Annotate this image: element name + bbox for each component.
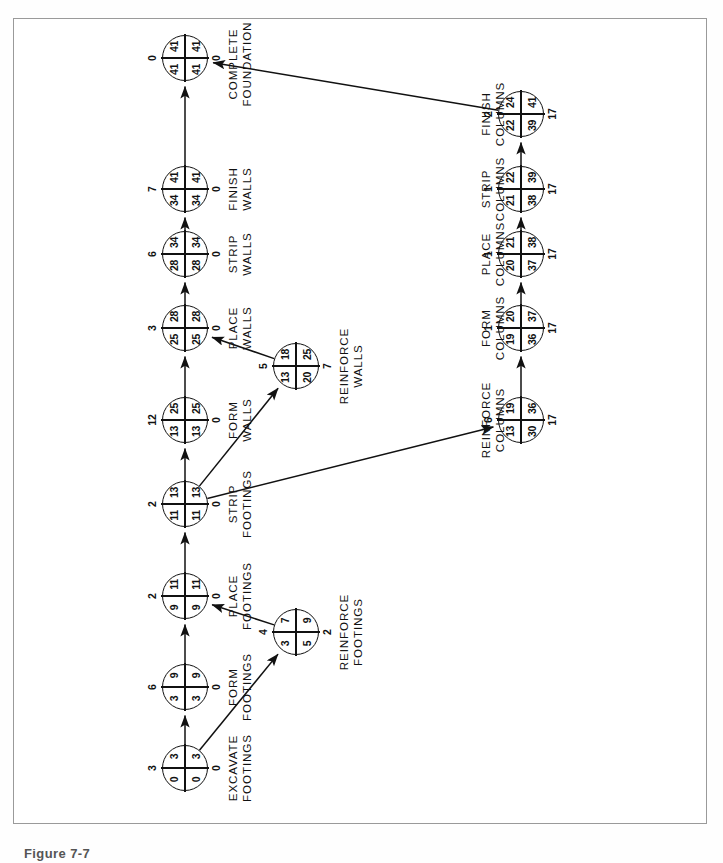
node-finish-walls[interactable]: 3441344170 bbox=[162, 166, 208, 212]
early-finish-value: 41 bbox=[164, 36, 184, 57]
float-value: 0 bbox=[210, 231, 222, 277]
node-reinforce-footings[interactable]: 375942 bbox=[273, 609, 319, 655]
duration-value: 12 bbox=[146, 397, 158, 443]
duration-value: 3 bbox=[146, 745, 158, 791]
float-value: 0 bbox=[210, 664, 222, 710]
duration-value: 3 bbox=[146, 305, 158, 351]
late-start-value: 37 bbox=[522, 255, 542, 276]
early-start-value: 28 bbox=[164, 255, 184, 276]
network-diagram: 0303303939603759429119112011131113201325… bbox=[13, 18, 707, 824]
float-value: 0 bbox=[210, 481, 222, 527]
float-value: 17 bbox=[546, 166, 558, 212]
diagram-rotation-wrapper: 0303303939603759429119112011131113201325… bbox=[13, 18, 707, 824]
late-finish-value: 3 bbox=[186, 746, 206, 767]
node-excavate-footings[interactable]: 030330 bbox=[162, 745, 208, 791]
early-start-value: 3 bbox=[275, 633, 295, 654]
early-start-value: 13 bbox=[275, 367, 295, 388]
early-finish-value: 34 bbox=[164, 232, 184, 253]
duration-value: 0 bbox=[146, 35, 158, 81]
float-value: 0 bbox=[210, 745, 222, 791]
float-value: 17 bbox=[546, 231, 558, 277]
late-finish-value: 25 bbox=[186, 398, 206, 419]
early-start-value: 13 bbox=[164, 421, 184, 442]
duration-value: 4 bbox=[257, 609, 269, 655]
late-finish-value: 36 bbox=[522, 398, 542, 419]
early-start-value: 25 bbox=[164, 329, 184, 350]
late-start-value: 25 bbox=[186, 329, 206, 350]
early-start-value: 41 bbox=[164, 59, 184, 80]
duration-value: 2 bbox=[146, 481, 158, 527]
duration-value: 7 bbox=[146, 166, 158, 212]
late-finish-value: 37 bbox=[522, 306, 542, 327]
float-value: 2 bbox=[321, 609, 333, 655]
node-place-footings[interactable]: 91191120 bbox=[162, 573, 208, 619]
label-reinforce-walls: REINFORCE WALLS bbox=[337, 286, 364, 446]
float-value: 0 bbox=[210, 166, 222, 212]
duration-value: 6 bbox=[146, 664, 158, 710]
late-finish-value: 39 bbox=[522, 167, 542, 188]
late-finish-value: 13 bbox=[186, 482, 206, 503]
early-start-value: 3 bbox=[164, 688, 184, 709]
late-start-value: 0 bbox=[186, 769, 206, 790]
late-start-value: 41 bbox=[186, 59, 206, 80]
late-finish-value: 11 bbox=[186, 574, 206, 595]
node-form-walls[interactable]: 13251325120 bbox=[162, 397, 208, 443]
late-start-value: 11 bbox=[186, 505, 206, 526]
late-start-value: 3 bbox=[186, 688, 206, 709]
float-value: 0 bbox=[210, 397, 222, 443]
late-finish-value: 41 bbox=[522, 92, 542, 113]
late-finish-value: 28 bbox=[186, 306, 206, 327]
early-finish-value: 9 bbox=[164, 665, 184, 686]
late-start-value: 39 bbox=[522, 115, 542, 136]
early-start-value: 0 bbox=[164, 769, 184, 790]
late-start-value: 36 bbox=[522, 329, 542, 350]
node-strip-footings[interactable]: 1113111320 bbox=[162, 481, 208, 527]
edge-finish-columns-to-complete-foundation bbox=[213, 63, 498, 111]
early-start-value: 11 bbox=[164, 505, 184, 526]
early-finish-value: 41 bbox=[164, 167, 184, 188]
node-reinforce-walls[interactable]: 1318202557 bbox=[273, 343, 319, 389]
duration-value: 5 bbox=[257, 343, 269, 389]
early-finish-value: 28 bbox=[164, 306, 184, 327]
early-finish-value: 11 bbox=[164, 574, 184, 595]
figure-caption: Figure 7-7 bbox=[24, 846, 90, 861]
early-start-value: 34 bbox=[164, 190, 184, 211]
early-finish-value: 25 bbox=[164, 398, 184, 419]
page-canvas: 0303303939603759429119112011131113201325… bbox=[0, 0, 723, 863]
label-reinforce-footings: REINFORCE FOOTINGS bbox=[337, 552, 364, 712]
late-start-value: 5 bbox=[297, 633, 317, 654]
float-value: 17 bbox=[546, 397, 558, 443]
float-value: 0 bbox=[210, 573, 222, 619]
label-finish-columns: FINISH COLUMNS bbox=[479, 34, 506, 194]
node-strip-walls[interactable]: 2834283460 bbox=[162, 231, 208, 277]
late-start-value: 28 bbox=[186, 255, 206, 276]
late-finish-value: 25 bbox=[297, 344, 317, 365]
late-finish-value: 9 bbox=[186, 665, 206, 686]
late-finish-value: 34 bbox=[186, 232, 206, 253]
float-value: 17 bbox=[546, 305, 558, 351]
early-finish-value: 18 bbox=[275, 344, 295, 365]
early-finish-value: 7 bbox=[275, 610, 295, 631]
node-complete-foundation[interactable]: 4141414100 bbox=[162, 35, 208, 81]
float-value: 0 bbox=[210, 305, 222, 351]
late-start-value: 34 bbox=[186, 190, 206, 211]
early-finish-value: 3 bbox=[164, 746, 184, 767]
node-form-footings[interactable]: 393960 bbox=[162, 664, 208, 710]
float-value: 0 bbox=[210, 35, 222, 81]
early-start-value: 9 bbox=[164, 597, 184, 618]
late-finish-value: 41 bbox=[186, 36, 206, 57]
label-complete-foundation: COMPLETE FOUNDATION bbox=[226, 18, 253, 144]
duration-value: 6 bbox=[146, 231, 158, 277]
float-value: 7 bbox=[321, 343, 333, 389]
node-place-walls[interactable]: 2528252830 bbox=[162, 305, 208, 351]
late-finish-value: 41 bbox=[186, 167, 206, 188]
late-start-value: 13 bbox=[186, 421, 206, 442]
late-start-value: 38 bbox=[522, 190, 542, 211]
early-finish-value: 13 bbox=[164, 482, 184, 503]
late-finish-value: 9 bbox=[297, 610, 317, 631]
late-finish-value: 38 bbox=[522, 232, 542, 253]
duration-value: 2 bbox=[146, 573, 158, 619]
late-start-value: 9 bbox=[186, 597, 206, 618]
late-start-value: 20 bbox=[297, 367, 317, 388]
late-start-value: 30 bbox=[522, 421, 542, 442]
